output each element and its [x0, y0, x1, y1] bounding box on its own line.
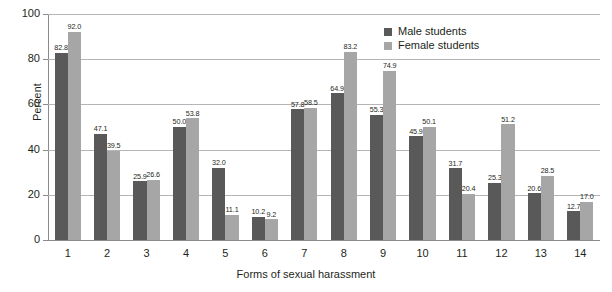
- bar-value-label: 57.8: [291, 101, 305, 108]
- bar-value-label: 28.5: [541, 167, 555, 174]
- bar-1-female[interactable]: 92.0: [68, 14, 81, 240]
- bar-9-male[interactable]: 55.3: [370, 14, 383, 240]
- bar-8-male[interactable]: 64.9: [331, 14, 344, 240]
- gridline-60: [48, 104, 600, 105]
- legend-item-male-students[interactable]: Male students: [384, 26, 479, 37]
- bar-value-label: 32.0: [212, 159, 226, 166]
- bar-value-label: 20.4: [462, 185, 476, 192]
- bar-rect[interactable]: [55, 53, 68, 240]
- bar-rect[interactable]: [225, 215, 238, 240]
- bar-value-label: 92.0: [67, 23, 81, 30]
- bar-group-2: 47.139.5: [94, 14, 120, 240]
- legend-item-female-students[interactable]: Female students: [384, 40, 479, 51]
- bar-6-male[interactable]: 10.2: [252, 14, 265, 240]
- bar-value-label: 47.1: [94, 125, 108, 132]
- bar-rect[interactable]: [252, 217, 265, 240]
- bar-value-label: 25.9: [133, 173, 147, 180]
- bar-rect[interactable]: [488, 183, 501, 240]
- bar-value-label: 83.2: [343, 43, 357, 50]
- bar-rect[interactable]: [186, 118, 199, 240]
- bar-14-female[interactable]: 17.0: [580, 14, 593, 240]
- bar-7-female[interactable]: 58.5: [304, 14, 317, 240]
- bar-12-male[interactable]: 25.3: [488, 14, 501, 240]
- bar-rect[interactable]: [501, 124, 514, 240]
- bar-3-male[interactable]: 25.9: [133, 14, 146, 240]
- gridline-40: [48, 150, 600, 151]
- bar-rect[interactable]: [580, 202, 593, 240]
- bar-chart: Percent 100806040200 82.892.047.139.525.…: [0, 0, 612, 292]
- bar-value-label: 45.9: [409, 128, 423, 135]
- bar-value-label: 51.2: [501, 116, 515, 123]
- x-tick-label-3: 3: [132, 248, 162, 259]
- bar-1-male[interactable]: 82.8: [55, 14, 68, 240]
- x-tick-label-12: 12: [486, 248, 516, 259]
- bar-3-female[interactable]: 26.6: [147, 14, 160, 240]
- bar-rect[interactable]: [331, 93, 344, 240]
- bar-5-female[interactable]: 11.1: [225, 14, 238, 240]
- bar-rect[interactable]: [344, 52, 357, 240]
- bar-rect[interactable]: [265, 219, 278, 240]
- y-tick-label-40: 40: [14, 144, 40, 155]
- bar-value-label: 39.5: [107, 142, 121, 149]
- x-tick-label-2: 2: [92, 248, 122, 259]
- bar-value-label: 26.6: [146, 171, 160, 178]
- bar-rect[interactable]: [541, 176, 554, 240]
- bar-value-label: 58.5: [304, 99, 318, 106]
- x-tick-label-1: 1: [53, 248, 83, 259]
- bar-6-female[interactable]: 9.2: [265, 14, 278, 240]
- bar-rect[interactable]: [462, 194, 475, 240]
- y-tick-label-20: 20: [14, 189, 40, 200]
- bar-rect[interactable]: [291, 109, 304, 240]
- x-tick-label-9: 9: [368, 248, 398, 259]
- bar-2-female[interactable]: 39.5: [107, 14, 120, 240]
- bar-value-label: 53.8: [186, 110, 200, 117]
- bar-value-label: 74.9: [383, 62, 397, 69]
- bar-rect[interactable]: [133, 181, 146, 240]
- bar-7-male[interactable]: 57.8: [291, 14, 304, 240]
- bar-8-female[interactable]: 83.2: [344, 14, 357, 240]
- bar-13-male[interactable]: 20.6: [528, 14, 541, 240]
- bar-group-1: 82.892.0: [55, 14, 81, 240]
- x-tick-label-5: 5: [210, 248, 240, 259]
- bar-value-label: 82.8: [54, 44, 68, 51]
- bar-value-label: 17.0: [580, 193, 594, 200]
- bar-rect[interactable]: [409, 136, 422, 240]
- bar-group-7: 57.858.5: [291, 14, 317, 240]
- bar-value-label: 11.1: [225, 206, 238, 213]
- y-tick-label-0: 0: [14, 234, 40, 245]
- bar-rect[interactable]: [68, 32, 81, 240]
- bar-value-label: 12.7: [567, 203, 581, 210]
- bar-rect[interactable]: [304, 108, 317, 240]
- bar-value-label: 25.3: [488, 174, 502, 181]
- bar-value-label: 50.1: [422, 118, 436, 125]
- bar-rect[interactable]: [212, 168, 225, 240]
- x-tick-label-13: 13: [526, 248, 556, 259]
- bar-13-female[interactable]: 28.5: [541, 14, 554, 240]
- bar-group-4: 50.053.8: [173, 14, 199, 240]
- bar-value-label: 64.9: [330, 85, 344, 92]
- legend-swatch-icon: [384, 42, 392, 50]
- gridline-100: [48, 14, 600, 15]
- bar-rect[interactable]: [94, 134, 107, 240]
- bar-12-female[interactable]: 51.2: [501, 14, 514, 240]
- bar-rect[interactable]: [370, 115, 383, 240]
- bar-rect[interactable]: [107, 151, 120, 240]
- x-axis-title: Forms of sexual harassment: [0, 268, 612, 280]
- bar-4-female[interactable]: 53.8: [186, 14, 199, 240]
- bar-14-male[interactable]: 12.7: [567, 14, 580, 240]
- bar-4-male[interactable]: 50.0: [173, 14, 186, 240]
- x-tick-label-4: 4: [171, 248, 201, 259]
- x-tick-label-10: 10: [408, 248, 438, 259]
- bar-rect[interactable]: [567, 211, 580, 240]
- bar-5-male[interactable]: 32.0: [212, 14, 225, 240]
- bar-rect[interactable]: [449, 168, 462, 240]
- bar-rect[interactable]: [423, 127, 436, 240]
- bar-rect[interactable]: [528, 193, 541, 240]
- bar-group-5: 32.011.1: [212, 14, 238, 240]
- bar-rect[interactable]: [383, 71, 396, 240]
- bar-group-12: 25.351.2: [488, 14, 514, 240]
- bar-rect[interactable]: [147, 180, 160, 240]
- bar-2-male[interactable]: 47.1: [94, 14, 107, 240]
- bar-rect[interactable]: [173, 127, 186, 240]
- plot-area: 82.892.047.139.525.926.650.053.832.011.1…: [48, 14, 600, 240]
